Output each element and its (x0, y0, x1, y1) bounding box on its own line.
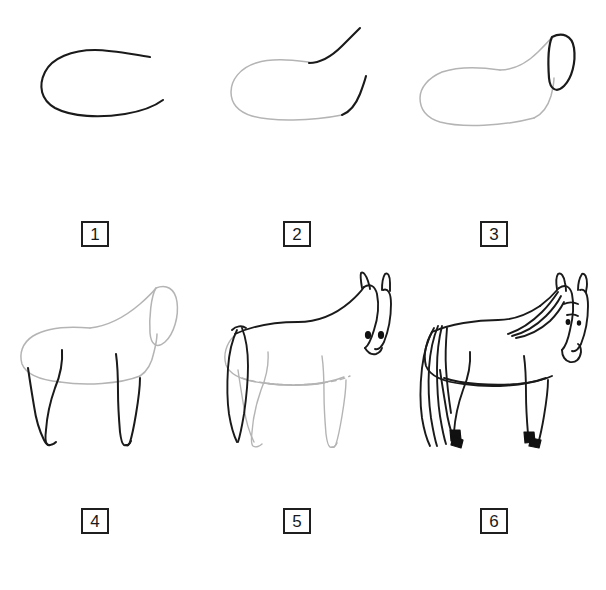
step-number-2: 2 (292, 226, 301, 243)
step-label-box-1: 1 (81, 221, 109, 247)
topline (235, 287, 364, 334)
head-oval (548, 35, 574, 90)
step-panel-3: 3 (404, 0, 606, 260)
ear-right (382, 273, 390, 291)
neck-strokes (309, 28, 366, 115)
step-5-drawing (202, 260, 404, 505)
tail-outer (227, 330, 237, 442)
previous-body-head-outline (21, 287, 178, 384)
back-topline (432, 306, 540, 332)
front-leg-near (126, 378, 140, 445)
belly-and-chest (425, 332, 546, 386)
step-number-6: 6 (489, 513, 498, 530)
step-panel-6: 6 (404, 260, 606, 550)
eye-left (365, 331, 371, 339)
step-number-5: 5 (292, 513, 301, 530)
step-2-drawing (202, 0, 404, 215)
hoof-front-near (529, 438, 541, 448)
final-horse-outline (421, 273, 589, 446)
step-panel-2: 2 (202, 0, 404, 260)
hind-leg-far-6 (454, 352, 470, 432)
ear-left-6 (556, 273, 566, 291)
step-label-box-5: 5 (283, 508, 311, 534)
front-leg-far-6 (524, 356, 528, 434)
front-leg-far (116, 354, 131, 445)
previous-body-legs-outline (225, 336, 350, 447)
eye-right-6 (577, 320, 581, 326)
step-label-box-2: 2 (283, 221, 311, 247)
head-right-edge-6 (572, 290, 588, 352)
step-label-box-4: 4 (81, 508, 109, 534)
brow-line (564, 303, 578, 305)
step-panel-1: 1 (0, 0, 202, 260)
neck-top-stroke (309, 28, 360, 63)
hooves (450, 430, 541, 448)
hind-leg-far (45, 350, 62, 445)
eyes (365, 331, 384, 339)
head-left-edge (364, 285, 378, 348)
eye-left-6 (566, 319, 571, 325)
step-3-drawing (404, 0, 606, 215)
step-number-4: 4 (90, 513, 99, 530)
front-leg-near-6 (538, 380, 548, 444)
previous-body-neck-outline (420, 37, 554, 125)
step-4-drawing (0, 260, 202, 505)
eyes-6 (566, 319, 582, 326)
drawing-tutorial-sheet: 1 2 (0, 0, 606, 590)
tail-strand-4 (446, 328, 451, 413)
step-panel-4: 4 (0, 260, 202, 550)
legs (28, 350, 140, 445)
step-label-box-6: 6 (480, 508, 508, 534)
eye-right (378, 331, 384, 339)
neck-bottom-stroke (342, 76, 366, 115)
step-panel-5: 5 (202, 260, 404, 550)
step-label-box-3: 3 (480, 221, 508, 247)
body-curve (41, 50, 163, 116)
step-grid: 1 2 (0, 0, 606, 550)
step5-new-lines (227, 272, 391, 442)
step-6-drawing (404, 260, 606, 505)
step-1-drawing (0, 0, 202, 215)
step-number-1: 1 (90, 226, 99, 243)
step-number-3: 3 (489, 226, 498, 243)
previous-body-outline (231, 60, 342, 120)
tail-inner (238, 328, 248, 442)
